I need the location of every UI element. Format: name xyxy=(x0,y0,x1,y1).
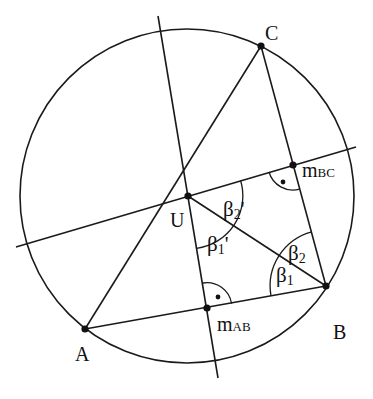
geometry-diagram: A B C U mAB mBC β2' β1' β2 β1 xyxy=(0,0,373,399)
point-a xyxy=(81,325,88,332)
label-b: B xyxy=(333,321,346,343)
point-b xyxy=(322,282,329,289)
label-m-bc: mBC xyxy=(302,159,335,181)
right-angle-arc-mab xyxy=(203,283,232,304)
label-beta2: β2 xyxy=(288,241,306,266)
label-beta1-prime: β1' xyxy=(207,232,228,257)
label-c: C xyxy=(265,22,278,44)
point-c xyxy=(257,42,264,49)
label-beta1: β1 xyxy=(276,263,294,288)
right-angle-dot-mbc xyxy=(281,180,286,185)
point-m-bc xyxy=(289,161,296,168)
side-ac xyxy=(85,46,261,329)
diagram-canvas: A B C U mAB mBC β2' β1' β2 β1 xyxy=(0,0,373,399)
right-angle-dot-mab xyxy=(216,295,221,300)
point-u xyxy=(184,192,191,199)
label-m-ab: mAB xyxy=(217,313,251,335)
label-u: U xyxy=(170,209,185,231)
label-beta2-prime: β2' xyxy=(223,197,244,222)
label-a: A xyxy=(75,343,90,365)
point-m-ab xyxy=(203,304,210,311)
